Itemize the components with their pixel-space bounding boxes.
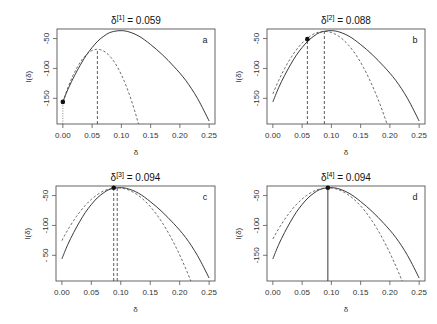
panel-title: δ[3] = 0.094 [111, 171, 161, 183]
title-value: = 0.094 [124, 172, 161, 183]
y-tick-label: -150 [252, 247, 261, 264]
panel-title: δ[1] = 0.059 [111, 14, 161, 26]
panel-a: 0.000.050.100.150.200.25-50-100-150δl(δ)… [24, 14, 217, 157]
y-axis-label: l(δ) [234, 70, 243, 82]
y-tick-label: -50 [41, 189, 50, 201]
chart-canvas: 0.000.050.100.150.200.25-50-100-150δl(δ)… [0, 0, 437, 324]
title-superscript: [3] [116, 171, 124, 179]
x-tick-label: 0.20 [382, 131, 398, 140]
x-tick-label: 0.25 [411, 131, 427, 140]
panel-letter: b [412, 35, 417, 45]
current-estimate-point [61, 100, 66, 105]
panel-title: δ[4] = 0.094 [321, 171, 371, 183]
title-value: = 0.088 [334, 15, 371, 26]
y-tick-label: -50 [42, 32, 51, 44]
title-superscript: [4] [327, 171, 335, 179]
x-tick-label: 0.05 [294, 288, 310, 297]
x-axis-label: δ [344, 148, 349, 157]
x-tick-label: 0.05 [84, 288, 100, 297]
x-tick-label: 0.15 [353, 288, 369, 297]
panel-letter: a [202, 35, 207, 45]
x-axis-label: δ [133, 305, 138, 314]
y-tick-label: -100 [252, 217, 261, 234]
y-tick-label: - 50 [41, 248, 50, 262]
y-tick-label: -100 [42, 60, 51, 77]
x-tick-label: 0.05 [294, 131, 310, 140]
x-tick-label: 0.15 [142, 288, 158, 297]
title-superscript: [1] [117, 14, 125, 22]
title-value: = 0.094 [334, 172, 371, 183]
x-tick-label: 0.10 [114, 131, 130, 140]
log-likelihood-curve [273, 31, 419, 121]
x-tick-label: 0.10 [113, 288, 129, 297]
x-tick-label: 0.20 [382, 288, 398, 297]
x-axis-label: δ [134, 148, 139, 157]
x-tick-label: 0.25 [201, 288, 217, 297]
y-tick-label: -100 [252, 60, 261, 77]
x-tick-label: 0.00 [55, 131, 71, 140]
panel-d: 0.000.050.100.150.200.25-50-100-150δl(δ)… [234, 171, 427, 314]
y-tick-label: -50 [252, 32, 261, 44]
quadratic-approximation-curve [273, 31, 419, 142]
panel-title: δ[2] = 0.088 [321, 14, 371, 26]
current-estimate-point [305, 37, 310, 42]
x-tick-label: 0.10 [324, 288, 340, 297]
x-tick-label: 0.15 [353, 131, 369, 140]
x-tick-label: 0.00 [265, 288, 281, 297]
x-tick-label: 0.00 [265, 131, 281, 140]
panel-c: 0.000.050.100.150.200.25-50-100- 50δl(δ)… [23, 171, 217, 314]
panel-letter: c [203, 192, 208, 202]
x-tick-label: 0.20 [172, 288, 188, 297]
x-tick-label: 0.05 [84, 131, 100, 140]
x-axis-label: δ [344, 305, 349, 314]
quadratic-approximation-curve [273, 188, 419, 299]
panel-letter: d [412, 192, 417, 202]
log-likelihood-curve [273, 188, 419, 278]
x-tick-label: 0.20 [172, 131, 188, 140]
quadratic-approximation-curve [63, 49, 209, 142]
plot-frame [267, 29, 425, 124]
plot-frame [56, 186, 215, 281]
current-estimate-point [111, 185, 116, 190]
x-tick-label: 0.10 [324, 131, 340, 140]
log-likelihood-curve [63, 31, 209, 121]
x-tick-label: 0.25 [201, 131, 217, 140]
plot-frame [57, 29, 215, 124]
y-tick-label: -100 [41, 217, 50, 234]
y-axis-label: l(δ) [24, 70, 33, 82]
quadratic-approximation-curve [62, 188, 209, 299]
x-tick-label: 0.15 [143, 131, 159, 140]
title-value: = 0.059 [124, 15, 161, 26]
log-likelihood-curve [62, 188, 209, 278]
x-tick-label: 0.00 [54, 288, 70, 297]
panel-b: 0.000.050.100.150.200.25-50-100-150δl(δ)… [234, 14, 427, 157]
y-axis-label: l(δ) [234, 227, 243, 239]
y-tick-label: -150 [42, 90, 51, 107]
y-tick-label: -150 [252, 90, 261, 107]
y-axis-label: l(δ) [23, 227, 32, 239]
x-tick-label: 0.25 [411, 288, 427, 297]
y-tick-label: -50 [252, 189, 261, 201]
plot-frame [267, 186, 425, 281]
title-superscript: [2] [327, 14, 335, 22]
current-estimate-point [326, 185, 331, 190]
figure: 0.000.050.100.150.200.25-50-100-150δl(δ)… [0, 0, 437, 324]
